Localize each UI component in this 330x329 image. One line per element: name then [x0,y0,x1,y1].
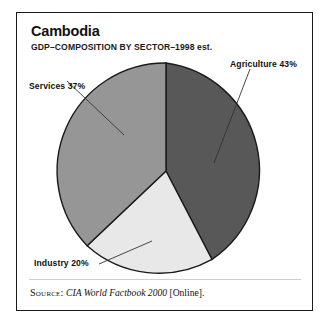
source-note: Source: CIA World Factbook 2000 [Online]… [30,287,302,298]
source-divider [29,279,301,280]
source-work-title: CIA World Factbook 2000 [66,287,167,298]
pie-label-services: Services 37% [29,81,85,91]
source-label: Source: [30,287,64,298]
pie-chart: Services 37% Agriculture 43% Industry 20… [17,13,314,312]
figure-frame: Cambodia GDP–COMPOSITION BY SECTOR–1998 … [16,12,313,311]
source-suffix: [Online]. [169,287,204,298]
pie-label-industry: Industry 20% [34,258,89,268]
pie-label-agriculture: Agriculture 43% [230,59,297,69]
